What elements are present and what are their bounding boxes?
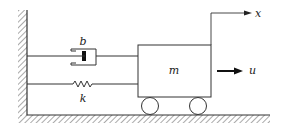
input-label: u xyxy=(249,64,256,77)
floor xyxy=(18,115,270,123)
mass-spring-damper-diagram: b k m u x xyxy=(0,0,292,133)
damper xyxy=(27,49,138,65)
mass-label: m xyxy=(169,64,179,77)
position-label: x xyxy=(255,7,262,20)
wall xyxy=(18,10,27,116)
wheel-right xyxy=(190,98,207,115)
force-arrow xyxy=(217,68,243,75)
spring-label: k xyxy=(80,92,87,105)
damper-label: b xyxy=(79,35,86,48)
wheel-left xyxy=(142,98,159,115)
spring xyxy=(27,81,138,87)
position-arrow xyxy=(211,11,252,46)
